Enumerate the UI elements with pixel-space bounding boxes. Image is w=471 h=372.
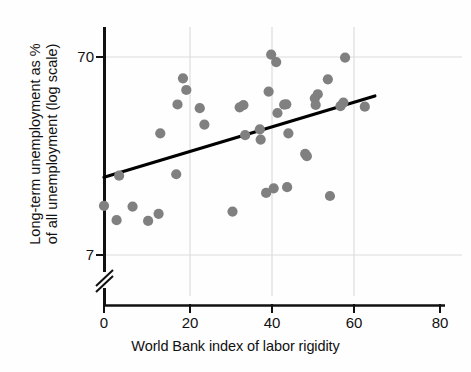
scatter-point (181, 85, 191, 95)
scatter-point (311, 100, 321, 110)
y-axis-title-line-2: of all unemployment (log scale) (44, 19, 61, 269)
scatter-point (325, 191, 335, 201)
y-tick-label-70: 70 (68, 48, 94, 65)
scatter-point (127, 201, 137, 211)
scatter-point (283, 128, 293, 138)
scatter-point (171, 169, 181, 179)
x-tick-label-0: 0 (90, 314, 118, 331)
scatter-point (256, 134, 266, 144)
scatter-point (199, 119, 209, 129)
scatter-point (154, 209, 164, 219)
scatter-point (227, 206, 237, 216)
scatter-point (238, 100, 248, 110)
scatter-point (281, 99, 291, 109)
scatter-point (143, 216, 153, 226)
scatter-point (172, 99, 182, 109)
scatter-point (178, 73, 188, 83)
scatter-point (114, 171, 124, 181)
scatter-point (269, 183, 279, 193)
x-tick-label-80: 80 (426, 314, 454, 331)
scatter-point (313, 89, 323, 99)
scatter-point (272, 108, 282, 118)
scatter-point (271, 57, 281, 67)
scatter-point (302, 151, 312, 161)
scatter-point (340, 53, 350, 63)
scatter-point (112, 215, 122, 225)
y-axis-title: Long-term unemployment as % of all unemp… (27, 19, 67, 269)
x-tick-label-20: 20 (176, 314, 204, 331)
y-tick-label-7: 7 (68, 246, 94, 263)
scatter-point (155, 128, 165, 138)
scatter-point (99, 201, 109, 211)
scatter-point (360, 102, 370, 112)
y-axis-title-line-1: Long-term unemployment as % (27, 19, 44, 269)
scatter-plot-figure: 70 7 0 20 40 60 80 World Bank index of l… (0, 0, 471, 372)
x-tick-label-60: 60 (340, 314, 368, 331)
scatter-point (255, 124, 265, 134)
scatter-point (240, 130, 250, 140)
scatter-point (323, 74, 333, 84)
scatter-point (338, 97, 348, 107)
x-axis-title: World Bank index of labor rigidity (0, 338, 471, 355)
axes (103, 27, 445, 306)
x-tick-label-40: 40 (258, 314, 286, 331)
scatter-point (195, 103, 205, 113)
scatter-point (264, 87, 274, 97)
scatter-point (282, 182, 292, 192)
